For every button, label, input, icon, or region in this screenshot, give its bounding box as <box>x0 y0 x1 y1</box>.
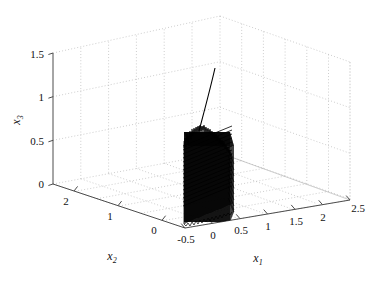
x1-tick-1: 0 <box>210 229 216 241</box>
x1-tick-2: 0.5 <box>234 224 248 236</box>
axis-title-x2: x2 <box>106 249 116 265</box>
x2-tick-2: 0 <box>151 224 157 236</box>
data-trajectory <box>183 125 234 226</box>
z-tick-labels: 0 0.5 1 1.5 <box>30 48 44 191</box>
data-transient-line <box>199 68 215 131</box>
x2-axis-title-sub: 2 <box>113 256 117 265</box>
x1-tick-4: 1.5 <box>289 215 303 227</box>
figure-3d-plot: 0 0.5 1 1.5 2 1 0 -0.5 0 0.5 1 1.5 2 2.5… <box>0 0 380 284</box>
x1-tick-5: 2 <box>320 211 326 223</box>
z-tick-2: 1 <box>39 91 45 103</box>
axis-x2-line <box>53 184 185 228</box>
svg-text:x3: x3 <box>9 115 25 125</box>
x1-tick-6: 2.5 <box>351 202 365 214</box>
axis-title-x1: x1 <box>252 251 262 267</box>
grid-right-wall <box>220 16 350 200</box>
tick-marks-x2 <box>74 186 166 220</box>
x2-tick-0: 2 <box>63 195 69 207</box>
x2-tick-1: 1 <box>107 210 113 222</box>
x2-tick-labels: 2 1 0 <box>63 195 157 236</box>
x1-tick-0: -0.5 <box>177 233 195 245</box>
tick-marks-z <box>48 53 53 186</box>
z-tick-3: 1.5 <box>30 48 44 60</box>
plot-canvas: 0 0.5 1 1.5 2 1 0 -0.5 0 0.5 1 1.5 2 2.5… <box>0 0 380 284</box>
x1-tick-3: 1 <box>265 220 271 232</box>
x1-axis-title-sub: 1 <box>259 258 263 267</box>
axis-title-z: x3 <box>9 115 25 125</box>
z-axis-title-sub: 3 <box>16 115 25 120</box>
z-tick-0: 0 <box>39 178 45 190</box>
z-tick-1: 0.5 <box>30 135 44 147</box>
